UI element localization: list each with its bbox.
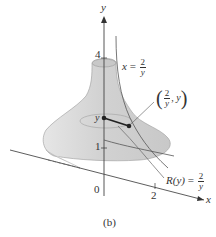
y-tick-4-label: 4 xyxy=(95,49,101,60)
x-tick-2-label: 2 xyxy=(151,190,157,201)
curve-equation-label: x = 2 y xyxy=(122,58,147,77)
y-marker-label: y xyxy=(95,113,99,123)
solid-of-revolution-figure xyxy=(0,0,216,237)
origin-label: 0 xyxy=(94,184,100,195)
y-point xyxy=(102,116,107,121)
curve-point xyxy=(127,124,132,129)
point-coordinate-label: ( 2 y , y) xyxy=(156,88,187,108)
radius-equation-label: R(y) = 2 y xyxy=(166,172,205,191)
point-label-leader xyxy=(131,102,154,124)
x-axis-arrow-icon xyxy=(197,196,204,201)
y-axis-label: y xyxy=(101,2,106,13)
curve-equation-fraction: 2 y xyxy=(140,58,147,77)
x-axis-label: x xyxy=(206,194,211,205)
figure-caption: (b) xyxy=(103,217,116,228)
y-tick-1-label: 1 xyxy=(95,141,101,152)
y-axis-arrow-icon xyxy=(101,16,107,23)
surface-body xyxy=(43,58,170,160)
